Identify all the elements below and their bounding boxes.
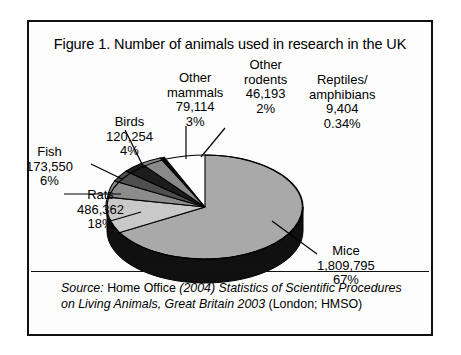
callout-rats-value: 486,362: [77, 203, 124, 218]
callout-other-rodents-percent: 2%: [244, 102, 287, 117]
source-publisher: Home Office: [107, 281, 176, 295]
callout-other-rodents: Other rodents 46,193 2%: [244, 58, 287, 116]
callout-birds-line1: Birds: [106, 115, 153, 130]
callout-rats-line1: Rats: [77, 188, 124, 203]
callout-other-mammals: Other mammals 79,114 3%: [167, 71, 223, 129]
callout-other-rodents-line2: rodents: [244, 73, 287, 88]
callout-reptiles-amphibians: Reptiles/ amphibians 9,404 0.34%: [309, 73, 376, 131]
source-place: (London; HMSO): [269, 297, 363, 311]
callout-fish-value: 173,550: [26, 160, 73, 175]
callout-birds-value: 120,254: [106, 130, 153, 145]
callout-birds: Birds 120,254 4%: [106, 115, 153, 159]
leader-line-reptiles: [201, 128, 225, 157]
callout-other-mammals-line2: mammals: [167, 86, 223, 101]
callout-other-rodents-value: 46,193: [244, 87, 287, 102]
callout-other-mammals-percent: 3%: [167, 115, 223, 130]
source-note: Source: Home Office (2004) Statistics of…: [61, 280, 406, 312]
callout-fish: Fish 173,550 6%: [26, 145, 73, 189]
callout-fish-line1: Fish: [26, 145, 73, 160]
callout-mice-line1: Mice: [317, 244, 375, 259]
callout-fish-percent: 6%: [26, 174, 73, 189]
source-label: Source:: [61, 281, 104, 295]
callout-reptiles-value: 9,404: [309, 102, 376, 117]
leader-line-birds: [91, 164, 122, 179]
callout-reptiles-line1: Reptiles/: [309, 73, 376, 88]
callout-other-mammals-line1: Other: [167, 71, 223, 86]
callout-birds-percent: 4%: [106, 144, 153, 159]
source-divider: [31, 271, 429, 272]
callout-rats: Rats 486,362 18%: [77, 188, 124, 232]
callout-rats-percent: 18%: [77, 217, 124, 232]
callout-other-mammals-value: 79,114: [167, 100, 223, 115]
figure-frame: Figure 1. Number of animals used in rese…: [27, 20, 433, 336]
callout-reptiles-line2: amphibians: [309, 88, 376, 103]
callout-reptiles-percent: 0.34%: [309, 117, 376, 132]
callout-other-rodents-line1: Other: [244, 58, 287, 73]
